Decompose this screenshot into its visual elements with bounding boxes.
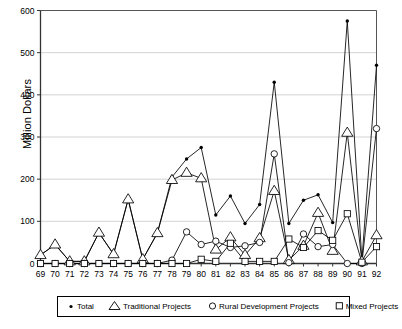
square-marker xyxy=(183,260,189,266)
chart-root: Million Dollars 010020030040050060069707… xyxy=(0,0,402,329)
chart-legend: Total Traditional Projects Rural Develop… xyxy=(57,296,350,317)
square-marker xyxy=(257,258,263,264)
dot-marker xyxy=(316,193,319,196)
x-tick-label: 89 xyxy=(328,269,338,279)
dot-marker xyxy=(302,199,305,202)
dot-marker xyxy=(258,203,261,206)
square-marker xyxy=(344,211,350,217)
square-marker xyxy=(242,258,248,264)
x-tick-label: 74 xyxy=(109,269,119,279)
x-tick-label: 78 xyxy=(167,269,177,279)
x-tick-label: 73 xyxy=(94,269,104,279)
circle-marker xyxy=(198,241,204,247)
square-marker xyxy=(110,260,116,266)
square-marker xyxy=(140,260,146,266)
triangle-marker xyxy=(371,230,382,239)
x-tick-label: 81 xyxy=(211,269,221,279)
square-marker xyxy=(125,260,131,266)
x-tick-label: 84 xyxy=(255,269,265,279)
triangle-marker xyxy=(312,207,323,216)
circle-marker xyxy=(213,238,219,244)
legend-label-rural-development-projects: Rural Development Projects xyxy=(219,302,319,311)
y-tick-label: 400 xyxy=(20,90,34,100)
x-tick-label: 70 xyxy=(50,269,60,279)
square-marker xyxy=(300,244,306,250)
legend-item-total: Total xyxy=(67,302,94,312)
dot-marker xyxy=(375,64,378,67)
x-tick-label: 75 xyxy=(123,269,133,279)
dot-marker xyxy=(331,221,334,224)
circle-marker xyxy=(286,259,292,265)
circle-marker xyxy=(373,125,379,131)
legend-label-traditional-projects: Traditional Projects xyxy=(123,302,191,311)
triangle-marker xyxy=(123,194,134,203)
dot-marker xyxy=(346,19,349,22)
circle-marker xyxy=(300,231,306,237)
legend-item-traditional-projects: Traditional Projects xyxy=(108,300,191,313)
square-marker xyxy=(227,240,233,246)
square-marker xyxy=(169,260,175,266)
triangle-marker xyxy=(50,239,61,248)
dot-marker xyxy=(273,80,276,83)
legend-label-mixed-projects: Mixed Projects xyxy=(346,302,398,311)
circle-marker xyxy=(271,151,277,157)
x-tick-label: 87 xyxy=(299,269,309,279)
square-marker xyxy=(335,301,344,312)
triangle-marker xyxy=(225,232,236,241)
series-line-dot xyxy=(41,21,377,261)
legend-item-rural-development-projects: Rural Development Projects xyxy=(208,301,319,312)
x-tick-label: 80 xyxy=(196,269,206,279)
triangle-marker xyxy=(181,167,192,176)
square-marker xyxy=(330,237,336,243)
y-tick-label: 500 xyxy=(20,48,34,58)
square-marker xyxy=(198,256,204,262)
triangle-marker xyxy=(108,249,119,258)
dot-marker xyxy=(67,302,75,312)
square-marker xyxy=(213,258,219,264)
triangle-marker xyxy=(210,244,221,253)
triangle-marker xyxy=(35,249,46,258)
triangle-marker xyxy=(152,227,163,236)
y-tick-label: 600 xyxy=(20,6,34,16)
x-tick-label: 82 xyxy=(226,269,236,279)
x-tick-label: 86 xyxy=(284,269,294,279)
series-line-triangle xyxy=(41,133,377,262)
x-tick-label: 76 xyxy=(138,269,148,279)
x-tick-label: 71 xyxy=(65,269,75,279)
x-tick-label: 69 xyxy=(36,269,46,279)
x-tick-label: 79 xyxy=(182,269,192,279)
y-tick-label: 100 xyxy=(20,216,34,226)
x-tick-label: 88 xyxy=(313,269,323,279)
circle-marker xyxy=(183,229,189,235)
circle-marker xyxy=(256,239,262,245)
y-tick-label: 200 xyxy=(20,174,34,184)
square-marker xyxy=(286,236,292,242)
dot-marker xyxy=(199,146,202,149)
circle-marker xyxy=(344,260,350,266)
dot-marker xyxy=(214,213,217,216)
x-tick-label: 91 xyxy=(357,269,367,279)
square-marker xyxy=(154,260,160,266)
square-marker xyxy=(315,228,321,234)
dot-marker xyxy=(287,222,290,225)
x-tick-label: 83 xyxy=(240,269,250,279)
legend-label-total: Total xyxy=(77,302,94,311)
circle-marker xyxy=(315,243,321,249)
dot-marker xyxy=(243,222,246,225)
square-marker xyxy=(67,260,73,266)
dot-marker xyxy=(229,194,232,197)
square-marker xyxy=(359,259,365,265)
x-tick-label: 92 xyxy=(372,269,382,279)
circle-marker xyxy=(242,243,248,249)
dot-marker xyxy=(185,157,188,160)
square-marker xyxy=(37,260,43,266)
x-tick-label: 77 xyxy=(153,269,163,279)
x-tick-label: 85 xyxy=(270,269,280,279)
y-tick-label: 0 xyxy=(30,259,35,269)
triangle-marker xyxy=(269,185,280,194)
circle-marker xyxy=(208,301,217,312)
square-marker xyxy=(96,260,102,266)
square-marker xyxy=(271,258,277,264)
x-tick-label: 90 xyxy=(343,269,353,279)
series-line-circle xyxy=(41,129,377,264)
